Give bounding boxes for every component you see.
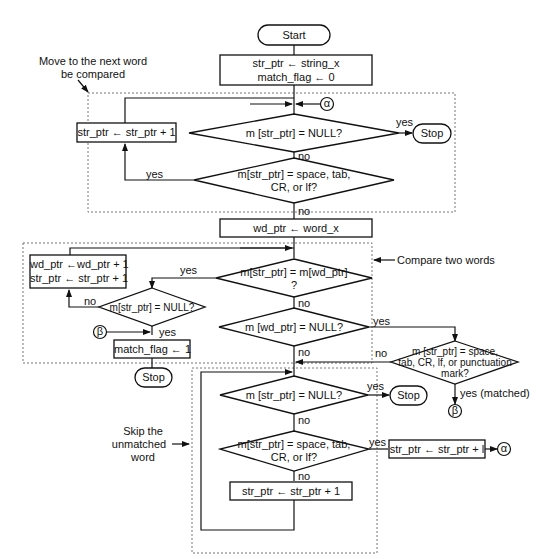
annotation-compare-two-words: Compare two words [397, 254, 495, 267]
init-label-2: match_flag ← 0 [220, 71, 372, 84]
dec-compare-label-2: ? [224, 279, 364, 292]
edge-yes-compare: yes [180, 264, 197, 277]
wd-init-label: wd_ptr ← word_x [220, 222, 372, 235]
dec-punct-label-1: m [str_ptr] = space, [395, 346, 515, 357]
dec-compare-label-1: m[str_ptr] = m[wd_ptr] [224, 266, 364, 279]
edge-no-null-2: no [84, 295, 96, 308]
dec-null-1-label: m [str_ptr] = NULL? [214, 127, 374, 140]
edge-yes-null-3: yes [367, 380, 384, 393]
alpha-in-label: α [321, 97, 333, 110]
annotation-skip-unmatched: Skip the unmatched word [108, 425, 178, 464]
edge-no-null-3: no [298, 414, 310, 427]
dec-null-2-label: m[str_ptr] = NULL? [102, 301, 202, 314]
annotation-move-next-word: Move to the next word be compared [38, 55, 148, 81]
dec-space-2-label-1: m[str_ptr] = space, tab, [224, 438, 364, 451]
start-label: Start [258, 29, 330, 42]
stop-2-label: Stop [135, 371, 172, 384]
dec-null-3-label: m [str_ptr] = NULL? [224, 389, 364, 402]
stop-1-label: Stop [413, 127, 451, 140]
edge-yes-space-1: yes [146, 168, 163, 181]
edge-yes-space-2: yes [369, 436, 386, 449]
annotation-line: be compared [38, 68, 148, 81]
dec-punct-label-3: mark? [395, 368, 515, 379]
annotation-line: unmatched [100, 438, 178, 451]
edge-no-compare: no [298, 297, 310, 310]
annotation-line: Move to the next word [38, 55, 148, 68]
inc-str-1-label: str_ptr ← str_ptr + 1 [77, 126, 176, 139]
dec-punct-label-2: tab, CR, lf, or punctuation [395, 357, 515, 368]
dec-wd-null-label: m [wd_ptr] = NULL? [224, 321, 364, 334]
init-label-1: str_ptr ← string_x [220, 57, 372, 70]
beta-in-label: β [94, 325, 106, 338]
edge-no-space-2: no [298, 470, 310, 483]
inc-str-alpha-label: str_ptr ← str_ptr + l [389, 443, 485, 456]
stop-3-label: Stop [390, 389, 427, 402]
dec-space-1-label-2: CR, or lf? [214, 181, 374, 194]
inc-str-2-label: str_ptr ← str_ptr + 1 [230, 485, 352, 498]
dec-space-2-label-2: CR, or lf? [224, 451, 364, 464]
edge-yes-wd-null: yes [373, 315, 390, 328]
annotation-line: Skip the [108, 425, 178, 438]
edge-yes-null-2: yes [159, 326, 176, 339]
dec-space-1-label-1: m[str_ptr] = space, tab, [214, 168, 374, 181]
match-flag-label: match_flag ← 1 [114, 343, 190, 356]
inc-both-label-2: str_ptr ← str_ptr + 1 [30, 272, 126, 285]
edge-no-space-1: no [298, 205, 310, 218]
alpha-out-label: α [498, 442, 510, 455]
annotation-line: word [108, 451, 178, 464]
edge-yes-null-1: yes [396, 116, 413, 129]
inc-both-label-1: wd_ptr ←wd_ptr + 1 [30, 258, 126, 271]
edge-no-punct: no [375, 347, 387, 360]
edge-no-null-1: no [298, 150, 310, 163]
edge-yes-matched: yes (matched) [460, 387, 530, 400]
edge-no-wd-null: no [298, 346, 310, 359]
beta-out-label: β [449, 404, 461, 417]
